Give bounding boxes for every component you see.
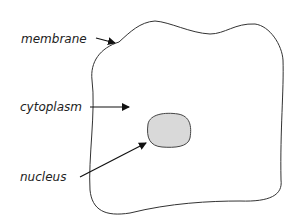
label-cytoplasm: cytoplasm <box>20 100 82 114</box>
nucleus-shape <box>148 113 191 147</box>
cell-diagram: membrane cytoplasm nucleus <box>0 0 294 221</box>
membrane-arrow <box>96 38 115 43</box>
label-nucleus: nucleus <box>20 170 66 184</box>
label-membrane: membrane <box>21 32 87 46</box>
